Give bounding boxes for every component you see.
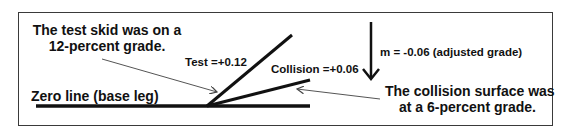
test-label: Test =+0.12: [185, 56, 247, 69]
collision-pointer-arrow: [297, 89, 380, 99]
test-note-line-1: The test skid was on a: [32, 22, 182, 38]
down-arrow-icon: [363, 22, 379, 79]
test-note: The test skid was on a 12-percent grade.: [32, 22, 182, 54]
collision-note: The collision surface was at a 6-percent…: [385, 83, 550, 115]
collision-note-line-1: The collision surface was: [385, 83, 550, 99]
slope-label: m = -0.06 (adjusted grade): [380, 46, 522, 59]
test-note-line-2: 12-percent grade.: [32, 38, 182, 54]
zero-line-label: Zero line (base leg): [31, 88, 159, 104]
collision-note-line-2: at a 6-percent grade.: [385, 99, 550, 115]
collision-label: Collision =+0.06: [271, 63, 359, 76]
